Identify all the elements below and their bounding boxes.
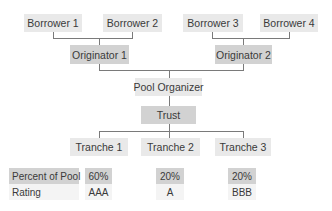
borrower-4-label: Borrower 4 [263,17,314,29]
tranche-3-rating: BBB [228,184,256,200]
borrower-3-label: Borrower 3 [187,17,238,29]
borrower-2-label: Borrower 2 [107,17,158,29]
tranche-3-box: Tranche 3 [215,138,271,156]
borrower-4-box: Borrower 4 [260,14,318,32]
trust-box: Trust [141,106,196,124]
borrower-1-box: Borrower 1 [24,14,82,32]
percent-of-pool-header: Percent of Pool [9,168,79,184]
tranche-1-percent: 60% [85,168,112,184]
originator-2-label: Originator 2 [216,49,271,61]
tranche-1-label: Tranche 1 [76,141,123,153]
tranche-2-label: Tranche 2 [147,141,194,153]
pool-organizer-box: Pool Organizer [135,78,202,96]
tranche-2-box: Tranche 2 [141,138,200,156]
tranche-2-rating: A [156,184,184,200]
tranche-2-percent: 20% [156,168,184,184]
originator-1-label: Originator 1 [72,49,127,61]
pool-organizer-label: Pool Organizer [133,81,203,93]
tranche-3-percent: 20% [228,168,256,184]
borrower-1-label: Borrower 1 [27,17,78,29]
trust-label: Trust [157,109,181,121]
originator-2-box: Originator 2 [215,45,272,64]
tranche-3-label: Tranche 3 [220,141,267,153]
originator-1-box: Originator 1 [70,45,129,64]
rating-header: Rating [9,184,79,200]
borrower-2-box: Borrower 2 [103,14,162,32]
tranche-1-box: Tranche 1 [70,138,128,156]
borrower-3-box: Borrower 3 [183,14,243,32]
tranche-1-rating: AAA [85,184,112,200]
